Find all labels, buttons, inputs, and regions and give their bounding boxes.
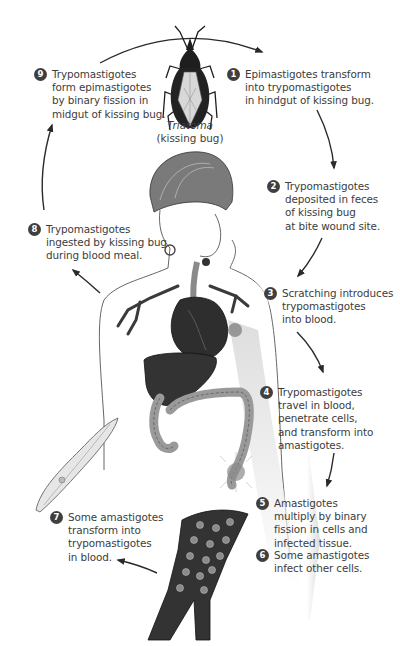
step-9: 9 Trypomastigotes form epimastigotes by … [52, 68, 165, 121]
step-6: 6 Some amastigotes infect other cells. [274, 549, 369, 575]
step-2: 2 Trypomastigotes deposited in feces of … [285, 180, 380, 233]
step-badge: 8 [28, 223, 41, 236]
arrow-8-to-nothing [73, 270, 100, 293]
step-badge: 6 [256, 549, 269, 562]
step-badge: 7 [50, 511, 63, 524]
arrow-2-to-3 [298, 238, 322, 276]
step-badge: 2 [267, 180, 280, 193]
hair [150, 152, 233, 212]
step-text: Trypomastigotes form epimastigotes by bi… [52, 68, 165, 121]
step-text: Some amastigotes transform into trypomas… [68, 511, 163, 564]
step-4: 4 Trypomastigotes travel in blood, penet… [278, 386, 373, 452]
arrow-1-to-2 [317, 110, 334, 168]
step-text: Scratching introduces trypomastigotes in… [282, 287, 393, 327]
step-badge: 9 [34, 68, 47, 81]
infected-tissue-upper [228, 323, 242, 337]
trypomastigote-illustration [36, 418, 118, 512]
arrow-8-to-9 [42, 125, 52, 210]
arrow-4-to-5 [327, 453, 334, 486]
kissing-bug-illustration [163, 26, 217, 130]
step-1: 1 Epimastigotes transform into trypomast… [245, 68, 374, 108]
step-badge: 5 [256, 497, 269, 510]
step-3: 3 Scratching introduces trypomastigotes … [282, 287, 393, 327]
step-text: Trypomastigotes travel in blood, penetra… [278, 386, 373, 452]
step-text: Trypomastigotes deposited in feces of ki… [285, 180, 380, 233]
step-text: Trypomastigotes ingested by kissing bug … [46, 223, 167, 263]
step-text: Amastigotes multiply by binary fission i… [274, 497, 367, 550]
heart [171, 297, 227, 360]
step-5: 5 Amastigotes multiply by binary fission… [274, 497, 367, 550]
step-8: 8 Trypomastigotes ingested by kissing bu… [46, 223, 167, 263]
step-badge: 1 [227, 68, 240, 81]
step-badge: 4 [260, 386, 273, 399]
arrow-9-to-1-top-arc [100, 38, 262, 63]
vector-common-name: (kissing bug) [157, 132, 224, 144]
vector-genus: Triatoma [150, 119, 230, 132]
arrow-3-to-4 [297, 332, 323, 372]
vector-caption: Triatoma (kissing bug) [150, 119, 230, 145]
step-7: 7 Some amastigotes transform into trypom… [68, 511, 163, 564]
step-text: Some amastigotes infect other cells. [274, 549, 369, 575]
step-badge: 3 [264, 287, 277, 300]
step-text: Epimastigotes transform into trypomastig… [245, 68, 374, 108]
infected-tissue-lower [227, 463, 245, 481]
